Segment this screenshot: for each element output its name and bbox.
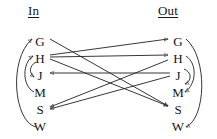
edge-out-J-to-in-S	[50, 76, 170, 109]
column-header-in: In	[28, 3, 39, 19]
edge-in-H-to-out-G	[50, 39, 168, 55]
node-out-J: J	[171, 69, 185, 82]
edge-in-H-to-out-S	[50, 59, 168, 106]
edge-out-H-to-in-S	[50, 60, 168, 107]
column-header-out: Out	[158, 3, 178, 19]
node-in-H: H	[33, 52, 47, 65]
edge-in-G-to-out-S	[50, 39, 168, 106]
in-out-mapping-figure: In Out G H J M S W G H J M S W	[0, 0, 217, 139]
node-out-M: M	[171, 86, 185, 99]
edge-in-H-to-out-H	[50, 55, 168, 57]
node-out-S: S	[171, 103, 185, 116]
arc-out-G-to-out-W	[186, 39, 202, 127]
node-in-G: G	[33, 35, 47, 48]
node-in-J: J	[33, 69, 47, 82]
node-out-W: W	[171, 120, 185, 133]
node-in-S: S	[33, 103, 47, 116]
node-out-H: H	[171, 52, 185, 65]
node-out-G: G	[171, 35, 185, 48]
node-in-M: M	[33, 86, 47, 99]
node-in-W: W	[33, 120, 47, 133]
